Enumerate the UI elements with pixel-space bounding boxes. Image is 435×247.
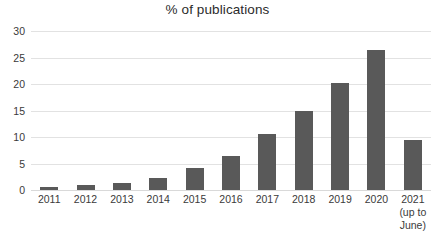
- x-axis-label-2021: 2021(up toJune): [391, 193, 435, 232]
- x-label-year: 2019: [328, 193, 351, 205]
- bar-2013[interactable]: [113, 183, 131, 190]
- y-axis-tick-20: 20: [0, 78, 25, 90]
- bar-2020[interactable]: [367, 50, 385, 190]
- bars-layer: [31, 31, 431, 190]
- x-label-year: 2016: [219, 193, 242, 205]
- bar-2014[interactable]: [149, 178, 167, 190]
- x-label-year: 2014: [147, 193, 170, 205]
- axis-baseline: [31, 190, 431, 191]
- y-axis-tick-10: 10: [0, 131, 25, 143]
- x-label-year: 2017: [256, 193, 279, 205]
- x-label-year: 2011: [38, 193, 61, 205]
- bar-2019[interactable]: [331, 83, 349, 190]
- x-label-sub2: June): [391, 219, 435, 232]
- x-label-year: 2018: [292, 193, 315, 205]
- x-label-year: 2020: [365, 193, 388, 205]
- x-label-year: 2013: [110, 193, 133, 205]
- y-axis-tick-15: 15: [0, 105, 25, 117]
- bar-2017[interactable]: [258, 134, 276, 190]
- x-label-sub1: (up to: [391, 206, 435, 219]
- y-axis-tick-5: 5: [0, 158, 25, 170]
- bar-2021[interactable]: [404, 140, 422, 190]
- x-label-year: 2015: [183, 193, 206, 205]
- bar-2015[interactable]: [186, 168, 204, 190]
- y-axis-tick-0: 0: [0, 184, 25, 196]
- bar-chart: % of publications 2011201220132014201520…: [0, 0, 435, 247]
- chart-title: % of publications: [0, 2, 435, 17]
- bar-2012[interactable]: [77, 185, 95, 190]
- x-label-year: 2021: [401, 193, 424, 205]
- bar-2018[interactable]: [295, 111, 313, 191]
- y-axis-tick-30: 30: [0, 25, 25, 37]
- y-axis-tick-25: 25: [0, 52, 25, 64]
- x-label-year: 2012: [74, 193, 97, 205]
- x-axis-labels: 2011201220132014201520162017201820192020…: [31, 193, 431, 247]
- bar-2011[interactable]: [40, 187, 58, 190]
- bar-2016[interactable]: [222, 156, 240, 190]
